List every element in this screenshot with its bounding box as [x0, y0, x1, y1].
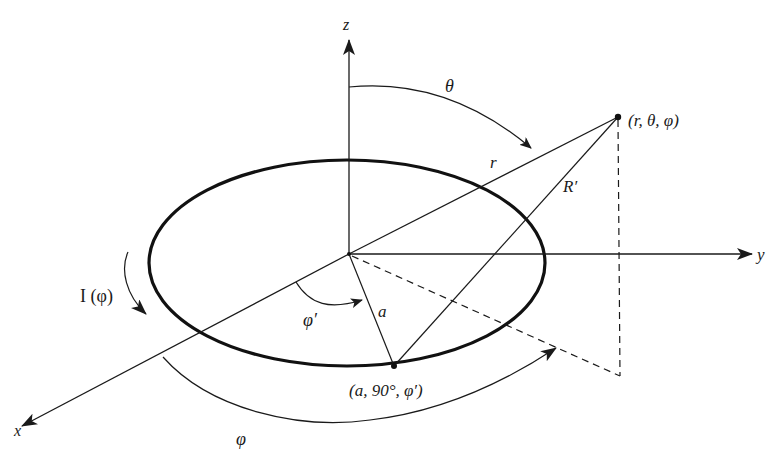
phi-label: φ — [236, 429, 246, 449]
radius-a-line — [349, 254, 394, 366]
z-axis-label: z — [342, 16, 350, 33]
a-label: a — [378, 302, 387, 321]
x-axis — [22, 254, 349, 426]
diagram-canvas: z y x θ (r, θ, φ) r R′ a φ′ (a, 90°, φ′)… — [0, 0, 779, 459]
horizontal-projection-dashed — [352, 256, 620, 376]
loop-geometry-diagram: z y x θ (r, θ, φ) r R′ a φ′ (a, 90°, φ′)… — [0, 0, 779, 459]
vertical-projection-dashed — [618, 120, 620, 376]
r-prime-label: R′ — [562, 177, 577, 196]
observation-point-dot — [615, 114, 621, 120]
observation-point-label: (r, θ, φ) — [628, 111, 679, 130]
current-loop — [149, 160, 545, 366]
source-point-dot — [391, 363, 397, 369]
r-vector — [349, 117, 618, 254]
source-point-label: (a, 90°, φ′) — [349, 381, 423, 400]
r-prime-vector — [394, 117, 618, 366]
theta-arc-arrow — [349, 86, 531, 148]
y-axis-label: y — [755, 245, 765, 264]
theta-label: θ — [445, 76, 454, 96]
phi-prime-label: φ′ — [303, 310, 318, 330]
x-axis-label: x — [13, 422, 21, 439]
current-label: I (φ) — [80, 286, 113, 307]
origin-dot — [347, 252, 351, 256]
current-direction-arrow — [125, 252, 146, 314]
r-label: r — [490, 153, 497, 172]
phi-prime-arc-arrow — [296, 282, 362, 305]
